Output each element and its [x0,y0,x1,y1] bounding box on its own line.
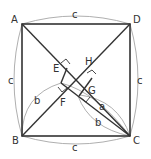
right-angle-E [61,59,70,64]
label-H: H [85,56,93,67]
inner-segments [22,24,130,136]
right-angle-G [81,97,90,102]
segment-E-F [61,68,67,83]
label-E: E [53,63,59,74]
label-B: B [12,135,19,146]
pythagorean-square-diagram: A D B C E H F G c c c c b a b [0,0,151,159]
arc-left [14,24,22,136]
label-G: G [88,85,96,96]
label-A: A [11,14,18,25]
length-label-bottom: c [72,142,78,153]
length-label-b-left: b [34,95,40,106]
length-label-b-right: b [95,117,101,128]
right-angle-H [87,70,96,74]
label-D: D [133,14,141,25]
label-F: F [60,97,66,108]
length-label-right: c [137,75,143,86]
length-label-a: a [99,101,105,112]
length-label-left: c [8,75,14,86]
length-label-top: c [72,9,78,20]
arc-b-left [22,83,61,136]
label-C: C [133,135,140,146]
